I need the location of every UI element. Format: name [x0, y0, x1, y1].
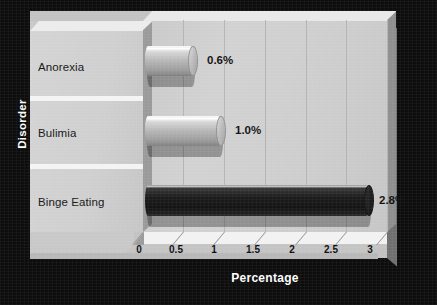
- category-label-binge-eating: Binge Eating: [38, 196, 142, 208]
- bar-body-binge-eating: [145, 185, 369, 216]
- y-axis-title: Disorder: [16, 89, 28, 159]
- bar-value-bulimia: 1.0%: [235, 124, 261, 136]
- tick-label-1: 1: [194, 244, 234, 255]
- tick-label-2: 2: [272, 244, 312, 255]
- category-panel-top-bevel: [30, 21, 152, 31]
- category-label-bulimia: Bulimia: [38, 127, 142, 139]
- tick-label-3: 3: [350, 244, 390, 255]
- bar-bulimia: [145, 116, 221, 146]
- bar-cap-bulimia: [216, 116, 226, 146]
- bar-body-bulimia: [145, 116, 221, 146]
- category-divider-1: [30, 96, 143, 101]
- plot-back-wall-top-bevel: [143, 11, 396, 21]
- bar-value-anorexia: 0.6%: [207, 54, 233, 66]
- category-divider-2: [30, 164, 143, 169]
- tick-label-2.5: 2.5: [311, 244, 351, 255]
- bar-body-anorexia: [145, 46, 193, 76]
- bar-anorexia: [145, 46, 193, 76]
- bar-binge-eating: [145, 185, 369, 216]
- bar-value-binge-eating: 2.8%: [379, 194, 405, 206]
- tick-label-1.5: 1.5: [233, 244, 273, 255]
- tick-label-0.5: 0.5: [156, 244, 196, 255]
- x-axis-title: Percentage: [160, 271, 370, 285]
- bar-cap-anorexia: [188, 46, 198, 76]
- category-label-anorexia: Anorexia: [38, 61, 142, 73]
- bar-cap-binge-eating: [364, 185, 374, 216]
- plot-floor: [143, 232, 387, 244]
- chart-container: Anorexia Bulimia Binge Eating 0.6% 1.0% …: [0, 0, 437, 305]
- tick-label-0: 0: [119, 244, 159, 255]
